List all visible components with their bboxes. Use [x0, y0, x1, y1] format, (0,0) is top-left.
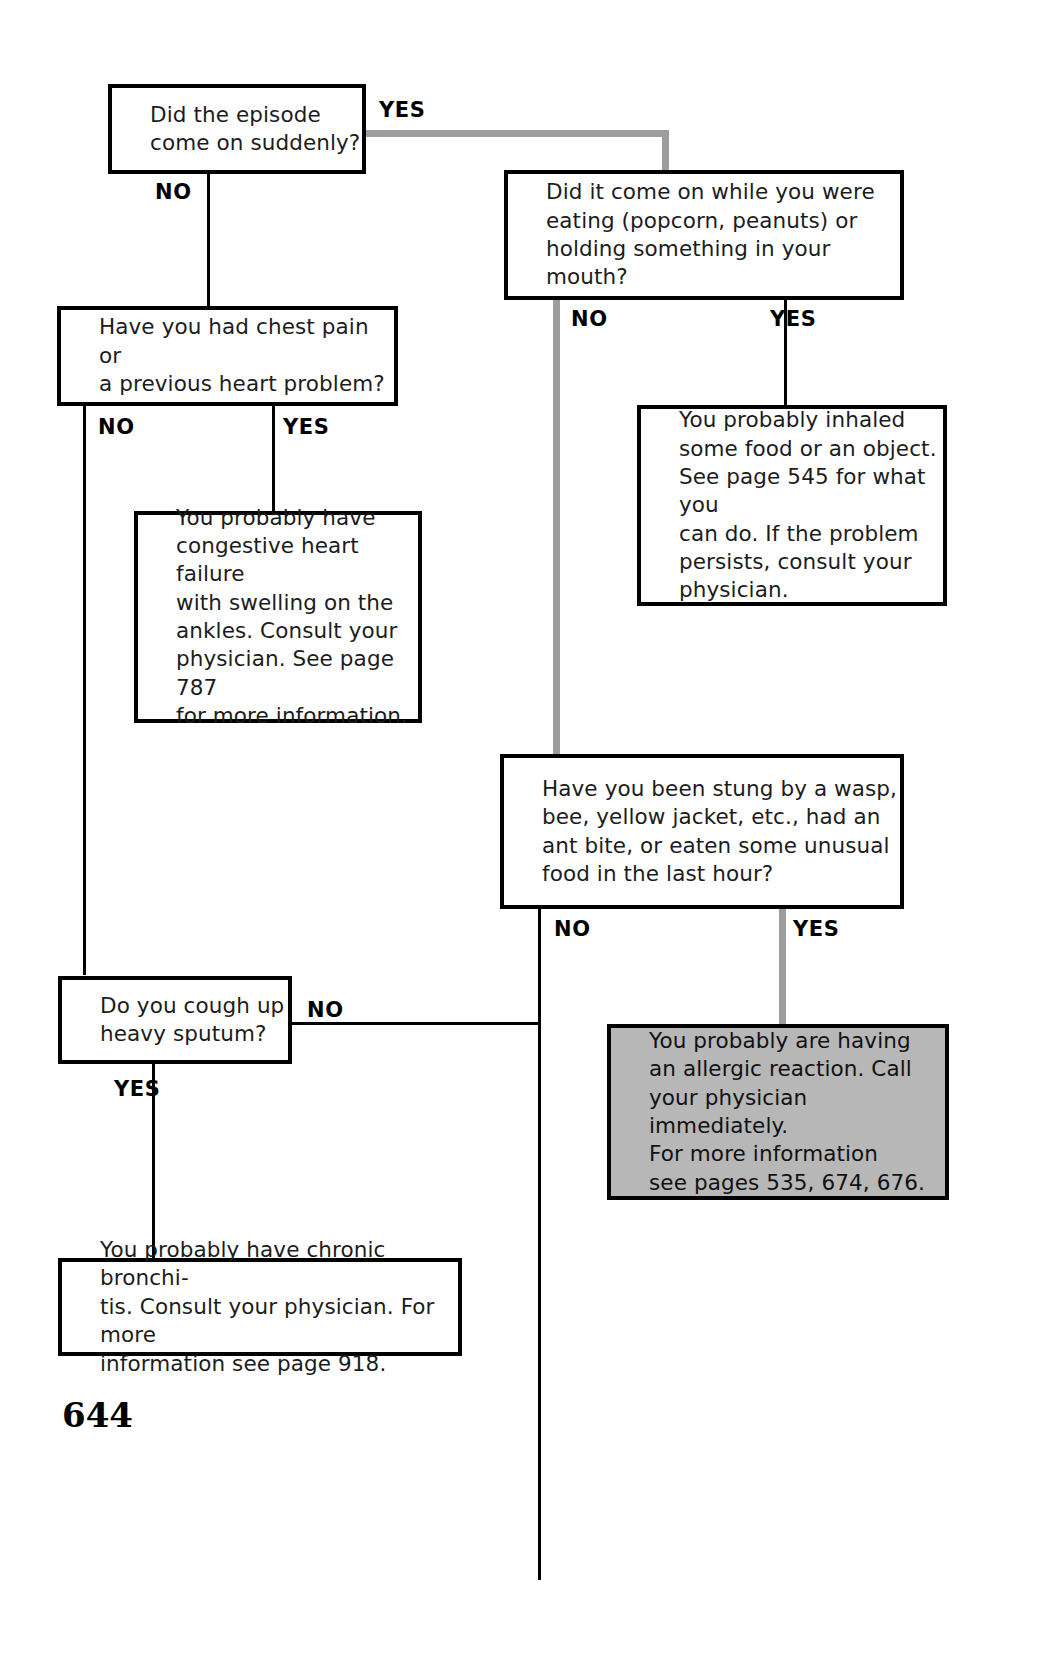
edge-line-eating-no: [553, 298, 560, 756]
node-answer-congestive-heart-failure[interactable]: You probably have congestive heart failu…: [134, 511, 422, 723]
edge-line-stung-yes: [779, 907, 786, 1026]
edge-line-sudden-yes-horizontal: [364, 130, 669, 137]
node-text: You probably inhaled some food or an obj…: [641, 406, 943, 605]
node-question-chest-pain[interactable]: Have you had chest pain or a previous he…: [57, 306, 398, 406]
edge-label-chest-no: NO: [98, 415, 135, 439]
edge-line-chest-yes: [272, 405, 275, 513]
edge-label-sudden-no: NO: [155, 180, 192, 204]
node-answer-inhaled-object[interactable]: You probably inhaled some food or an obj…: [637, 405, 947, 606]
node-question-eating[interactable]: Did it come on while you were eating (po…: [504, 170, 904, 300]
node-answer-chronic-bronchitis[interactable]: You probably have chronic bronchi- tis. …: [58, 1258, 462, 1356]
edge-label-sudden-yes: YES: [379, 98, 425, 122]
node-question-sting-or-unusual-food[interactable]: Have you been stung by a wasp, bee, yell…: [500, 754, 904, 909]
edge-label-eating-yes: YES: [770, 307, 816, 331]
node-text: Do you cough up heavy sputum?: [62, 992, 284, 1049]
edge-line-sudden-yes-vertical: [662, 130, 669, 172]
edge-line-stung-no: [538, 907, 541, 1580]
flowchart-page: Did the episode come on suddenly? Did it…: [0, 0, 1057, 1680]
node-text: You probably are having an allergic reac…: [611, 1027, 945, 1197]
edge-label-sputum-no: NO: [307, 998, 344, 1022]
node-text: Have you had chest pain or a previous he…: [61, 313, 394, 398]
node-text: You probably have chronic bronchi- tis. …: [62, 1236, 458, 1378]
edge-label-stung-yes: YES: [793, 917, 839, 941]
node-text: Have you been stung by a wasp, bee, yell…: [504, 775, 897, 889]
node-text: Did it come on while you were eating (po…: [508, 178, 900, 292]
node-question-sudden-onset[interactable]: Did the episode come on suddenly?: [108, 84, 366, 174]
node-text: Did the episode come on suddenly?: [112, 101, 360, 158]
edge-line-chest-no: [83, 405, 86, 975]
edge-label-chest-yes: YES: [283, 415, 329, 439]
node-answer-allergic-reaction[interactable]: You probably are having an allergic reac…: [607, 1024, 949, 1200]
page-number: 644: [62, 1395, 133, 1435]
edge-label-stung-no: NO: [554, 917, 591, 941]
node-text: You probably have congestive heart failu…: [138, 504, 418, 731]
edge-label-sputum-yes: YES: [114, 1077, 160, 1101]
edge-label-eating-no: NO: [571, 307, 608, 331]
node-question-heavy-sputum[interactable]: Do you cough up heavy sputum?: [58, 976, 292, 1064]
edge-line-sputum-no: [290, 1022, 540, 1025]
edge-line-sudden-no: [207, 172, 210, 307]
